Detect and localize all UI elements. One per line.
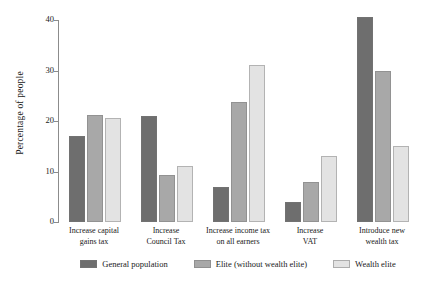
bar xyxy=(177,166,193,222)
bar-chart-figure: Percentage of people 010203040 Increase … xyxy=(0,0,427,285)
bar xyxy=(69,136,85,222)
x-tick-label: IncreaseCouncil Tax xyxy=(130,226,202,247)
bar xyxy=(141,116,157,222)
bar xyxy=(213,187,229,222)
x-tick-label-line: wealth tax xyxy=(346,237,418,248)
legend-item: Wealth elite xyxy=(333,259,396,269)
x-tick-label: Increase income taxon all earners xyxy=(202,226,274,247)
legend-swatch xyxy=(333,260,350,268)
x-tick-label-line: Increase income tax xyxy=(202,226,274,237)
y-tick-label: 20 xyxy=(46,115,55,125)
x-tick-label-line: on all earners xyxy=(202,237,274,248)
legend-item: General population xyxy=(80,259,167,269)
legend-label: Wealth elite xyxy=(355,259,396,269)
y-tick-label: 40 xyxy=(46,14,55,24)
y-tick-mark xyxy=(54,222,59,223)
y-tick-label: 30 xyxy=(46,65,55,75)
bar xyxy=(393,146,409,222)
bar-group xyxy=(213,20,265,222)
x-tick-label-line: VAT xyxy=(274,237,346,248)
bar xyxy=(87,115,103,222)
plot-area: 010203040 Increase capitalgains taxIncre… xyxy=(58,20,418,222)
x-tick-label-line: Increase capital xyxy=(58,226,130,237)
bar-group xyxy=(69,20,121,222)
bar xyxy=(375,71,391,223)
bar-groups xyxy=(59,20,418,222)
y-tick-label: 0 xyxy=(50,216,54,226)
x-tick-label-line: Council Tax xyxy=(130,237,202,248)
legend-item: Elite (without wealth elite) xyxy=(194,259,307,269)
bar xyxy=(159,175,175,222)
legend-label: General population xyxy=(102,259,167,269)
x-tick-label: Introduce newwealth tax xyxy=(346,226,418,247)
bar xyxy=(105,118,121,222)
bar xyxy=(285,202,301,222)
y-axis-title: Percentage of people xyxy=(15,33,25,193)
bar-group xyxy=(357,20,409,222)
legend-swatch xyxy=(194,260,211,268)
legend-label: Elite (without wealth elite) xyxy=(216,259,307,269)
bar xyxy=(357,17,373,222)
chart-legend: General populationElite (without wealth … xyxy=(58,259,418,269)
legend-swatch xyxy=(80,260,97,268)
x-tick-label-line: Introduce new xyxy=(346,226,418,237)
bar-group xyxy=(285,20,337,222)
x-tick-label: IncreaseVAT xyxy=(274,226,346,247)
y-tick-label: 10 xyxy=(46,166,55,176)
x-tick-label-line: Increase xyxy=(274,226,346,237)
bar xyxy=(303,182,319,222)
x-tick-label-line: Increase xyxy=(130,226,202,237)
x-tick-label: Increase capitalgains tax xyxy=(58,226,130,247)
bar xyxy=(321,156,337,222)
bar xyxy=(231,102,247,222)
x-tick-label-line: gains tax xyxy=(58,237,130,248)
bar-group xyxy=(141,20,193,222)
bar xyxy=(249,65,265,222)
